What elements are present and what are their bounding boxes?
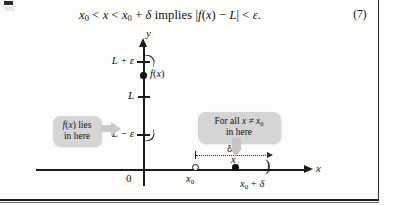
page-corner-mark <box>4 1 13 5</box>
delta-arrow-icon <box>267 152 273 158</box>
fx-point-label: f(x) <box>150 68 165 79</box>
callout-fx-lies-in-here: f(x) lies in here <box>53 116 101 146</box>
callout-forall-line2: in here <box>204 127 274 138</box>
page-border-right <box>378 0 379 199</box>
page-border-bottom <box>0 199 379 201</box>
y-label-limit: L <box>78 89 134 101</box>
equation-row: x0 < x < x0 + δ implies |f(x) − L| < ε. … <box>0 8 379 30</box>
origin-label: 0 <box>126 172 132 184</box>
y-axis-label: y <box>146 27 151 39</box>
callout-fx-line2: in here <box>59 131 95 142</box>
callout-fx-arrow-head-icon <box>111 122 121 136</box>
x0-open-circle-marker <box>192 164 199 171</box>
limit-diagram: y x L + ε L L − ε 0 f(x) x0 x ) x0 + δ <box>0 30 379 198</box>
x0-label: x0 <box>186 173 194 186</box>
y-tick-upper-flick <box>143 54 155 66</box>
callout-fx-line1: f(x) lies <box>59 120 95 131</box>
fx-point-marker <box>140 72 147 79</box>
y-tick-limit <box>138 96 150 98</box>
equation-text: x0 < x < x0 + δ implies |f(x) − L| < ε. <box>0 8 340 23</box>
callout-forall-line1: For all x ≠ x0 <box>204 116 274 127</box>
x0-plus-delta-label: x0 + δ <box>240 178 264 191</box>
x-axis-arrow-icon <box>304 165 313 173</box>
interval-right-paren: ) <box>265 158 270 174</box>
y-axis-arrow-icon <box>139 38 147 47</box>
callout-forall-arrow-head-icon <box>230 148 242 157</box>
equation-number: (7) <box>342 8 378 20</box>
y-label-upper: L + ε <box>78 54 134 66</box>
page-border-bottom-secondary <box>0 202 379 203</box>
y-tick-lower-flick <box>143 129 155 141</box>
x-axis-label: x <box>316 162 321 174</box>
figure-page: x0 < x < x0 + δ implies |f(x) − L| < ε. … <box>0 0 393 205</box>
